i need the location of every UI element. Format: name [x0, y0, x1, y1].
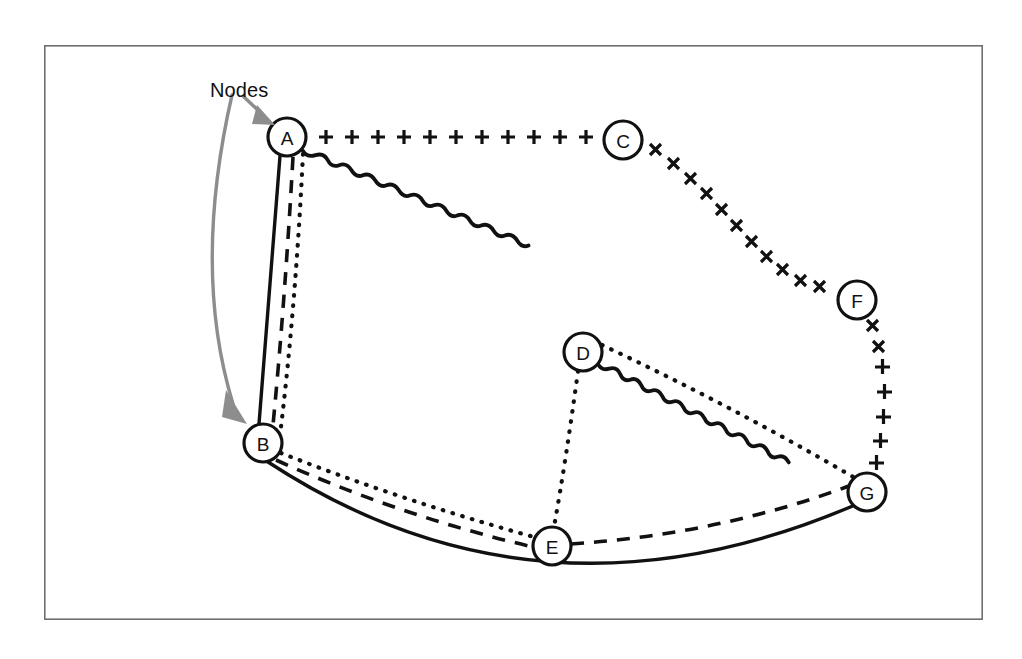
- node-e[interactable]: E: [533, 527, 571, 565]
- plus-mark: [371, 130, 385, 144]
- cross-mark: [701, 188, 712, 199]
- network-graph-canvas: A B C D E F G: [0, 0, 1022, 659]
- edge-a-d-wavy: [294, 151, 538, 247]
- edge-c-f-cross-marks: [650, 144, 825, 292]
- nodes-annotation-label: Nodes: [210, 79, 268, 102]
- cross-mark: [685, 173, 696, 184]
- cross-mark: [746, 236, 757, 247]
- plus-mark: [527, 130, 541, 144]
- cross-mark: [668, 158, 679, 169]
- plus-mark: [501, 130, 515, 144]
- edge-f-g-plus-marks: [867, 320, 892, 470]
- edge-a-b-solid: [259, 156, 280, 424]
- edge-a-b-dotted: [281, 154, 303, 427]
- figure-frame: [45, 46, 982, 619]
- node-a-label: A: [281, 128, 294, 149]
- node-c-label: C: [616, 131, 630, 152]
- plus-mark: [873, 433, 888, 448]
- node-c[interactable]: C: [604, 121, 642, 159]
- cross-mark: [795, 275, 806, 286]
- plus-mark: [319, 130, 333, 144]
- cross-mark: [873, 341, 884, 352]
- cross-mark: [650, 144, 661, 155]
- plus-mark: [876, 409, 891, 424]
- annotation-arrow-curve: [212, 95, 233, 404]
- annotation-arrow-head: [222, 390, 247, 424]
- node-g[interactable]: G: [848, 473, 886, 511]
- edge-d-g-dotted: [602, 345, 855, 478]
- annotation-arrow-to-node-b: [212, 95, 247, 424]
- edge-d-e-dotted: [554, 371, 578, 527]
- edge-e-g-dashed: [571, 486, 849, 544]
- node-g-label: G: [860, 483, 875, 504]
- figure-root: A B C D E F G: [0, 0, 1022, 659]
- plus-mark: [449, 130, 463, 144]
- node-b[interactable]: B: [244, 424, 282, 462]
- node-d[interactable]: D: [564, 333, 602, 371]
- node-f[interactable]: F: [838, 281, 876, 319]
- node-d-label: D: [576, 343, 590, 364]
- node-b-label: B: [257, 434, 270, 455]
- plus-mark: [875, 359, 890, 374]
- plus-mark: [877, 384, 892, 399]
- cross-mark: [814, 281, 825, 292]
- edge-a-c-plus-marks: [319, 130, 593, 144]
- plus-mark: [397, 130, 411, 144]
- plus-mark: [345, 130, 359, 144]
- cross-mark: [777, 264, 788, 275]
- node-f-label: F: [851, 291, 863, 312]
- plus-mark: [423, 130, 437, 144]
- edge-b-e-dotted: [281, 453, 534, 537]
- edge-b-e-dashed: [276, 460, 533, 547]
- node-e-label: E: [546, 537, 559, 558]
- plus-mark: [869, 455, 884, 470]
- cross-mark: [731, 220, 742, 231]
- plus-mark: [553, 130, 567, 144]
- plus-mark: [475, 130, 489, 144]
- cross-mark: [761, 251, 772, 262]
- cross-mark: [716, 204, 727, 215]
- cross-mark: [867, 320, 878, 331]
- edge-d-g-wavy: [586, 364, 801, 462]
- plus-mark: [579, 130, 593, 144]
